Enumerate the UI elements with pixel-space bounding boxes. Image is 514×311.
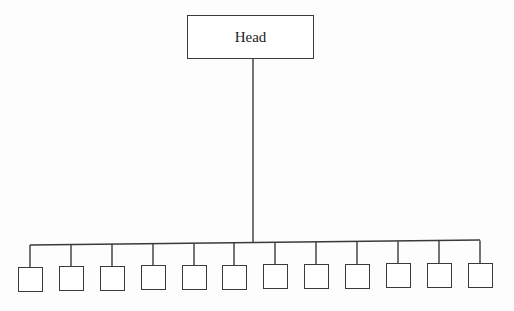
- child-node-4: [141, 265, 166, 290]
- child-node-10: [386, 263, 411, 288]
- child-node-9: [345, 264, 370, 289]
- child-node-2: [59, 266, 84, 291]
- child-node-6: [222, 265, 247, 290]
- child-node-11: [427, 263, 452, 288]
- org-chart-diagram: Head: [0, 0, 514, 311]
- child-node-8: [304, 264, 329, 289]
- head-label: Head: [235, 29, 267, 46]
- child-node-5: [182, 265, 207, 290]
- child-node-1: [18, 267, 43, 292]
- child-node-7: [263, 264, 288, 289]
- bus-line: [30, 240, 480, 245]
- head-node: Head: [187, 15, 314, 59]
- child-node-12: [468, 263, 493, 288]
- child-node-3: [100, 266, 125, 291]
